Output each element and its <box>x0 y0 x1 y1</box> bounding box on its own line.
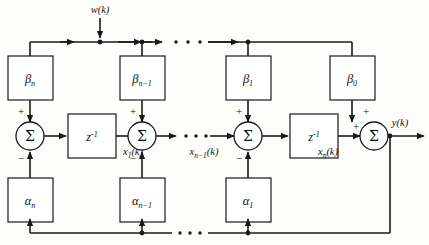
gain-block-alpha-n[interactable]: αn <box>8 178 53 233</box>
feedforward-bus <box>30 40 352 56</box>
alpha-n-1-sub: n−1 <box>139 201 152 210</box>
alpha-1-sub: 1 <box>249 201 253 210</box>
delay-2-exponent: -1 <box>313 130 320 139</box>
sum-3-plus-sign: + <box>236 105 242 117</box>
xn-arg: (k) <box>326 146 338 158</box>
xn-1-arg: (k) <box>207 146 219 158</box>
node-w-injection <box>98 40 103 45</box>
gain-block-beta-1[interactable]: β1 <box>226 56 271 122</box>
beta-n-sub: n <box>31 79 35 88</box>
sum-4-plus-top-sign: + <box>363 105 369 117</box>
sum-1-minus-sign: − <box>18 152 24 164</box>
output-signal-arg: (k) <box>397 117 409 129</box>
delay-1-exponent: -1 <box>91 130 98 139</box>
sum-1-sigma: Σ <box>25 128 35 144</box>
block-diagram-canvas: w(k) βn <box>0 0 429 245</box>
input-signal-base: w <box>91 4 98 15</box>
node-alpha-n-1-tap <box>140 231 145 236</box>
gain-block-beta-n-1[interactable]: βn−1 <box>120 56 165 122</box>
node-alpha-1-tap <box>246 231 251 236</box>
state-signal-xn-1-label: xn−1(k) <box>189 146 219 160</box>
node-beta-1-tap <box>246 40 251 45</box>
sum-1-plus-sign: + <box>18 105 24 117</box>
beta-0-sub: 0 <box>353 79 357 88</box>
summing-junction-2[interactable]: Σ + − <box>128 105 176 178</box>
xn-1-sub: n−1 <box>194 151 207 160</box>
beta-n-1-box[interactable] <box>120 56 165 100</box>
alpha-n-1-box[interactable] <box>120 178 165 222</box>
input-branch: w(k) <box>91 4 110 38</box>
sum-2-minus-sign: − <box>130 152 136 164</box>
sum-2-plus-sign: + <box>130 105 136 117</box>
sum-3-minus-sign: − <box>236 152 242 164</box>
ellipsis-middle <box>184 134 207 137</box>
sum-2-sigma: Σ <box>137 128 147 144</box>
input-signal-label: w(k) <box>91 4 110 16</box>
beta-1-sub: 1 <box>249 79 253 88</box>
beta-n-1-sub: n−1 <box>138 79 151 88</box>
summing-junction-3[interactable]: Σ + − <box>234 105 288 178</box>
ellipsis-top <box>174 40 201 43</box>
node-output-tap <box>388 134 393 139</box>
sum-4-plus-left-sign: + <box>353 120 359 132</box>
sum-4-sigma: Σ <box>369 128 379 144</box>
output-signal-label: y(k) <box>391 117 409 129</box>
block-diagram-svg: w(k) βn <box>0 0 429 245</box>
summing-junction-1[interactable]: Σ + − <box>16 105 66 178</box>
gain-block-alpha-n-1[interactable]: αn−1 <box>120 178 165 233</box>
delay-block-2[interactable]: z-1 xn(k) <box>290 114 360 160</box>
sum-3-sigma: Σ <box>243 128 253 144</box>
alpha-n-sub: n <box>31 201 35 210</box>
summing-junction-4[interactable]: Σ + + y(k) <box>353 105 424 150</box>
gain-block-beta-n[interactable]: βn <box>8 56 53 122</box>
input-signal-arg: (k) <box>98 4 110 16</box>
ellipsis-bottom <box>178 231 201 234</box>
gain-block-alpha-1[interactable]: α1 <box>226 178 271 233</box>
